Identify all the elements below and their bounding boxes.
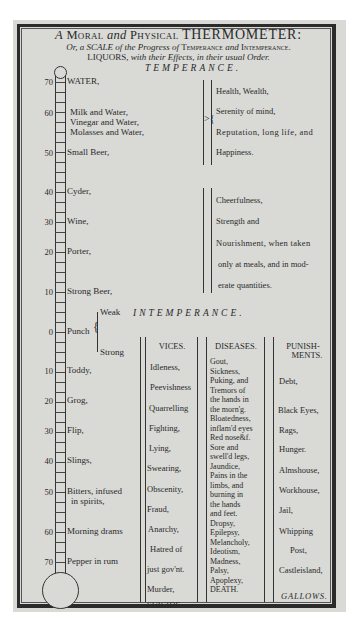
liquor-porter: Porter, <box>67 246 91 256</box>
degree-label: 60 <box>33 108 53 118</box>
liquor-bitters-2: in spirits, <box>71 496 105 506</box>
thermometer-tick <box>55 212 65 213</box>
thermometer-tick <box>55 232 65 233</box>
liquor-molasses-water: Molasses and Water, <box>70 127 144 137</box>
punishments-header-2: MENTS. <box>279 350 335 360</box>
thermometer-tick <box>55 512 65 513</box>
document-subtitle-2: LIQUORS, with their Effects, in their us… <box>0 52 357 62</box>
disease-item: burning in <box>210 490 253 500</box>
vice-item: Hatred of <box>150 544 182 554</box>
liquor-bitters: Bitters, infused <box>67 486 122 496</box>
subtitle-and: and <box>225 42 239 52</box>
title-and: and <box>107 28 127 42</box>
degree-label: 20 <box>33 247 53 257</box>
diseases-brace-right <box>264 337 265 602</box>
thermometer-tick <box>55 332 65 333</box>
thermometer-tick <box>55 472 65 473</box>
document-subtitle: Or, a SCALE of the Progress of Temperanc… <box>0 42 357 52</box>
vice-item: Fraud, <box>147 504 169 514</box>
degree-label: 0 <box>33 327 53 337</box>
effects2-brace-left <box>203 188 204 293</box>
punishment-item: Jail, <box>279 505 293 515</box>
thermometer-tick <box>55 542 65 543</box>
thermometer-tick <box>55 282 65 283</box>
disease-item: Palsy, <box>210 566 253 576</box>
disease-item: Dropsy, <box>210 519 253 529</box>
subtitle-temperance: Temperance <box>181 42 223 52</box>
section-temperance: TEMPERANCE. <box>145 63 241 73</box>
thermometer-tick <box>55 292 65 293</box>
thermometer-tick <box>55 222 65 223</box>
degree-label: 60 <box>33 527 53 537</box>
punch-strong: Strong <box>100 347 124 357</box>
degree-label: 70 <box>33 77 53 87</box>
thermometer-tick <box>55 432 65 433</box>
effect-reputation: Reputation, long life, and <box>216 127 313 137</box>
thermometer-tick <box>55 312 65 313</box>
subtitle-rest: with their Effects, in their usual Order… <box>131 52 270 62</box>
document-title: A Moral and Physical THERMOMETER: <box>0 27 357 43</box>
disease-item: Bloatedness, <box>210 414 253 424</box>
thermometer-bulb <box>42 572 79 609</box>
disease-item: Apoplexy, <box>210 576 253 586</box>
liquor-pepper-rum: Pepper in rum <box>67 556 118 566</box>
title-physical: Physical <box>130 28 178 42</box>
thermometer-tick <box>55 412 65 413</box>
thermometer-tick <box>55 272 65 273</box>
thermometer-tick <box>55 162 65 163</box>
degree-label: 10 <box>33 287 53 297</box>
thermometer-tick <box>55 342 65 343</box>
vice-item: Anarchy, <box>148 524 179 534</box>
thermometer-tick <box>55 252 65 253</box>
vice-item: Quarrelling <box>149 403 188 413</box>
disease-item: Tremors of <box>210 386 253 396</box>
disease-item: Red nose&f. <box>210 433 253 443</box>
effect-health: Health, Wealth, <box>216 86 269 96</box>
diseases-brace-left <box>206 337 207 602</box>
thermometer-tick <box>55 182 65 183</box>
thermometer-tube <box>55 75 66 581</box>
vice-item: Obscenity, <box>147 484 183 494</box>
effect-serenity: Serenity of mind, <box>216 106 275 116</box>
effect-strength: Strength and <box>216 216 259 226</box>
thermometer-tick <box>55 502 65 503</box>
disease-item: DEATH. <box>210 585 253 595</box>
disease-item: Madness, <box>210 557 253 567</box>
punch-brace-line <box>97 312 98 352</box>
thermometer-tick <box>55 562 65 563</box>
vices-brace-left-2 <box>145 337 146 602</box>
thermometer-tick <box>55 422 65 423</box>
liquor-vinegar-water: Vinegar and Water, <box>70 117 139 127</box>
thermometer-tick <box>55 552 65 553</box>
subtitle-liquors: LIQUORS, <box>87 52 128 62</box>
title-main: THERMOMETER: <box>182 27 302 42</box>
thermometer-tick <box>55 402 65 403</box>
effect-moderate: erate quantities. <box>218 280 272 290</box>
subtitle-text: Or, a SCALE of the Progress of <box>66 42 179 52</box>
subtitle-intemperance: Intemperance. <box>241 42 291 52</box>
degree-label: 30 <box>33 426 53 436</box>
thermometer-tick <box>55 362 65 363</box>
vice-item: Swearing, <box>147 463 181 473</box>
thermometer-tick <box>55 192 65 193</box>
degree-label: 10 <box>33 366 53 376</box>
vice-item: Peevishness <box>150 382 191 392</box>
thermometer-tick <box>55 262 65 263</box>
liquor-toddy: Toddy, <box>67 365 92 375</box>
punishment-item: Debt, <box>279 376 298 386</box>
vices-header: VICES. <box>147 341 197 351</box>
punishment-item: Workhouse, <box>279 485 320 495</box>
degree-label: 40 <box>33 456 53 466</box>
effect-cheerfulness: Cheerfulness, <box>216 195 263 205</box>
liquor-cyder: Cyder, <box>67 186 91 196</box>
thermometer-tick <box>55 102 65 103</box>
disease-item: Sickness, <box>210 367 253 377</box>
liquor-small-beer: Small Beer, <box>67 147 109 157</box>
thermometer-tick <box>55 492 65 493</box>
disease-item: Puking, and <box>210 376 253 386</box>
disease-item: and feet. <box>210 509 253 519</box>
disease-item: Melancholy, <box>210 538 253 548</box>
liquor-slings: Slings, <box>67 455 92 465</box>
liquor-milk-water: Milk and Water, <box>70 107 128 117</box>
vice-item: Idleness, <box>150 362 180 372</box>
